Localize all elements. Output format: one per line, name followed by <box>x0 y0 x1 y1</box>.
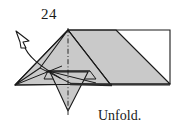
origami-diagram: 24 Unfold. <box>0 0 180 133</box>
lower-point-flap <box>50 72 88 111</box>
origami-step-figure: 24 Unfold. <box>0 0 180 133</box>
step-number: 24 <box>41 6 57 22</box>
step-caption: Unfold. <box>98 108 141 123</box>
unfold-arrow-head <box>16 31 29 48</box>
layer-shadow-edge <box>70 84 112 85</box>
